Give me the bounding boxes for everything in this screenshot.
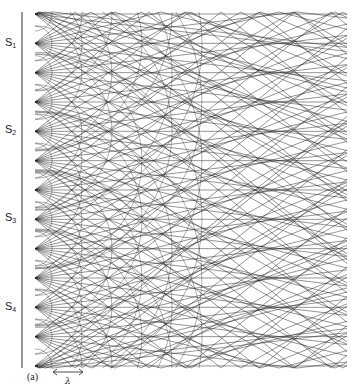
source-label-sub: 4: [12, 306, 16, 313]
source-label-s2: S2: [5, 124, 16, 138]
source-label-sub: 2: [12, 129, 16, 136]
wavelength-label: λ: [65, 376, 71, 386]
ray: [35, 259, 347, 337]
ray: [35, 43, 347, 121]
wavelength-arrow: [53, 369, 83, 375]
source-label-s3: S3: [5, 212, 16, 226]
source-label-s4: S4: [5, 301, 16, 315]
source-label-sub: 3: [12, 217, 16, 224]
source-label-sub: 1: [12, 42, 16, 49]
figure-caption: (a): [27, 371, 38, 382]
source-label-s1: S1: [5, 37, 16, 51]
ray-diagram: [0, 0, 352, 390]
